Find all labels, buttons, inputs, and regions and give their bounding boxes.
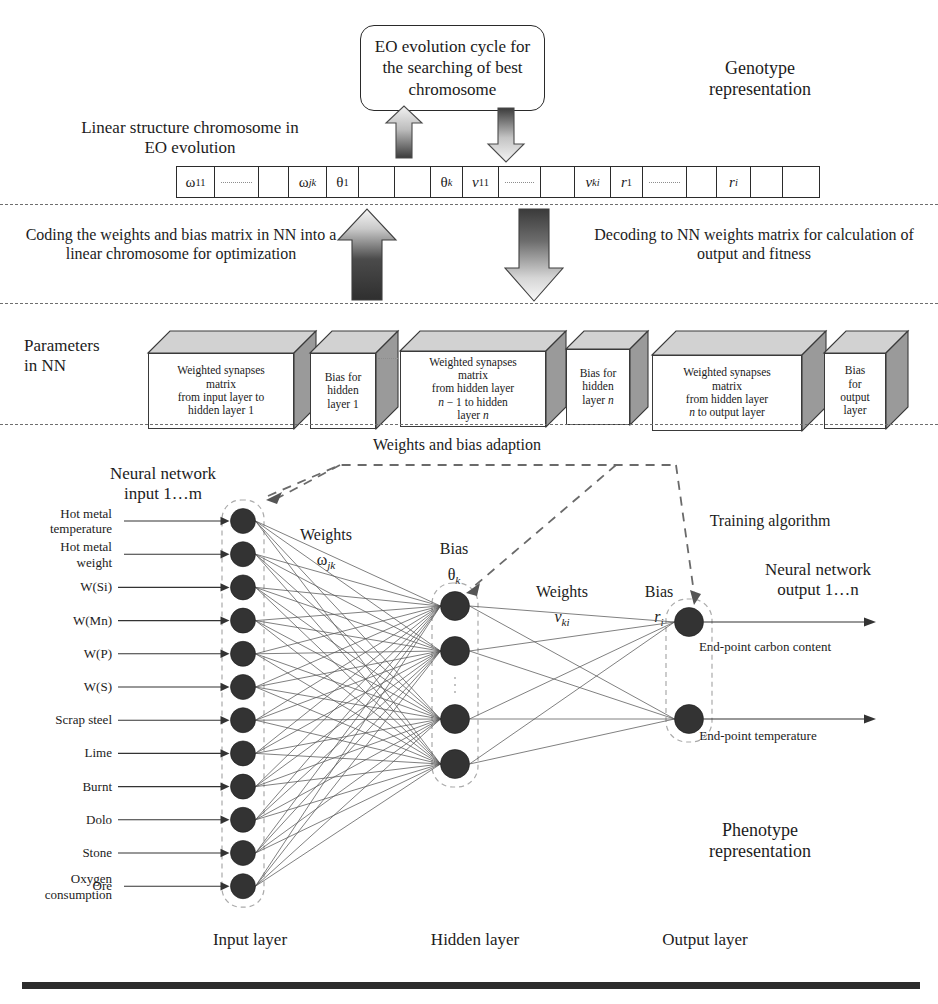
bottom-rule: [22, 982, 920, 989]
neural-network-graph: [0, 0, 938, 1004]
